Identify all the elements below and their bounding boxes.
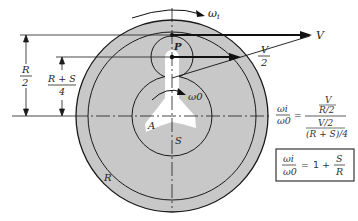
dim-r-half: R 2: [20, 64, 32, 88]
planet-label: P: [173, 41, 182, 52]
svg-text:2: 2: [260, 57, 267, 68]
planetary-gear-diagram: ωi V V 2 P ω0 A S R R 2 R + S 4 ωi ω0 = …: [0, 0, 358, 221]
ring-label: R: [103, 172, 112, 183]
sun-label: S: [175, 135, 182, 146]
svg-text:V/2: V/2: [318, 118, 334, 128]
carrier-label: A: [147, 120, 155, 131]
v-label: V: [316, 29, 325, 42]
svg-text:2: 2: [21, 77, 28, 88]
svg-text:R: R: [21, 64, 30, 75]
svg-text:V: V: [261, 44, 270, 55]
omega-o-label: ω0: [188, 91, 203, 102]
omega-i-label: ωi: [208, 7, 220, 21]
equation-result-boxed: ωi ω0 = 1 + S R: [276, 149, 354, 181]
svg-text:=: =: [301, 160, 309, 170]
svg-text:R + S: R + S: [47, 73, 76, 84]
svg-text:R: R: [335, 166, 343, 177]
equation-ratio-derivation: ωi ω0 = V R/2 V/2 (R + S)/4: [276, 95, 348, 139]
svg-text:1 +: 1 +: [313, 159, 330, 170]
svg-text:ω0: ω0: [277, 115, 291, 126]
svg-text:V: V: [325, 95, 333, 105]
svg-text:ω0: ω0: [283, 166, 297, 177]
svg-text:ωi: ωi: [277, 103, 288, 114]
dim-rs-quarter: R + S 4: [47, 73, 76, 97]
svg-text:=: =: [294, 110, 302, 120]
svg-text:S: S: [336, 153, 343, 164]
v-half-label: V 2: [258, 44, 270, 68]
svg-text:(R + S)/4: (R + S)/4: [306, 129, 348, 139]
svg-text:4: 4: [58, 86, 65, 97]
svg-text:ωi: ωi: [283, 153, 294, 164]
svg-text:R/2: R/2: [318, 105, 335, 115]
